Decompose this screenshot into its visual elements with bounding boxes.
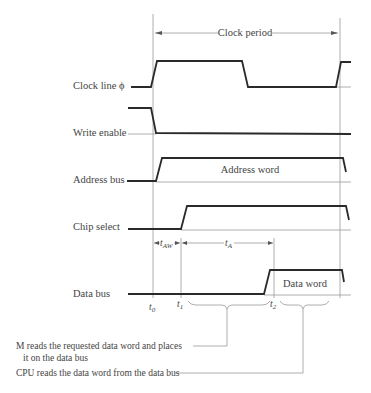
t-aw-interval: tAW bbox=[154, 238, 180, 250]
address-word-label: Address word bbox=[221, 164, 280, 175]
t0-label: t0 bbox=[149, 302, 156, 314]
clock-waveform bbox=[131, 61, 351, 87]
t-a-interval: tA bbox=[182, 238, 273, 250]
t1-label: t1 bbox=[177, 299, 183, 311]
chip-select-waveform bbox=[128, 206, 349, 229]
memory-read-annotation: M reads the requested data word and plac… bbox=[16, 341, 182, 351]
memory-read-brace bbox=[188, 301, 270, 309]
data-word-label: Data word bbox=[283, 278, 328, 289]
clock-line-label: Clock line ϕ bbox=[73, 80, 125, 91]
write-enable-label: Write enable bbox=[73, 127, 127, 138]
memory-read-annotation-line2: it on the data bus bbox=[23, 353, 88, 363]
t2-label: t2 bbox=[270, 299, 277, 311]
cpu-read-leader bbox=[175, 309, 303, 373]
svg-text:tAW: tAW bbox=[160, 238, 174, 250]
data-bus-label: Data bus bbox=[73, 288, 110, 299]
cpu-read-annotation: CPU reads the data word from the data bu… bbox=[16, 368, 180, 378]
chip-select-label: Chip select bbox=[73, 221, 120, 232]
address-bus-label: Address bus bbox=[73, 174, 125, 185]
timing-diagram: Clock period Clock line ϕ Write enable A… bbox=[0, 0, 371, 393]
memory-read-leader bbox=[193, 309, 227, 346]
clock-period-label: Clock period bbox=[218, 27, 273, 38]
svg-text:tA: tA bbox=[225, 238, 233, 250]
write-enable-waveform bbox=[128, 108, 351, 134]
cpu-read-brace bbox=[280, 301, 329, 309]
